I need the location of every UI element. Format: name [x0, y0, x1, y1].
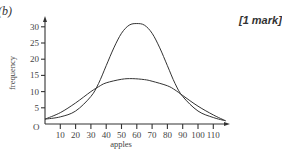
y-tick-label: 30 [30, 22, 40, 32]
axes [43, 16, 230, 126]
y-tick-label: 25 [30, 38, 40, 48]
x-tick-label: 10 [56, 130, 66, 140]
x-tick-label: 110 [207, 130, 221, 140]
x-tick-label: 90 [178, 130, 188, 140]
y-tick-label: 10 [30, 87, 40, 97]
y-tick-label: 5 [35, 103, 40, 113]
y-tick-label: 15 [30, 70, 40, 80]
x-tick-label: 30 [86, 130, 96, 140]
y-axis-title: frequency [7, 55, 17, 90]
x-tick-label: 20 [71, 130, 81, 140]
x-tick-label: 60 [132, 130, 142, 140]
frequency-chart: 51015202530 102030405060708090100110 O a… [0, 0, 282, 158]
origin-label: O [33, 122, 40, 132]
curves [45, 24, 226, 121]
y-tick-label: 20 [30, 54, 40, 64]
x-tick-label: 70 [148, 130, 158, 140]
x-tick-label: 80 [163, 130, 173, 140]
x-tick-label: 100 [191, 130, 205, 140]
y-axis-arrow-icon [43, 16, 47, 22]
flat-curve [45, 79, 226, 121]
x-axis-arrow-icon [224, 122, 230, 126]
x-axis-title: apples [110, 139, 132, 149]
x-ticks: 102030405060708090100110 [56, 124, 221, 140]
y-ticks: 51015202530 [30, 22, 45, 113]
